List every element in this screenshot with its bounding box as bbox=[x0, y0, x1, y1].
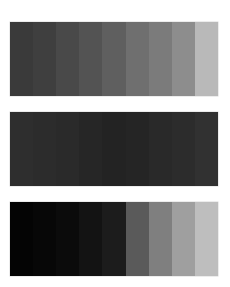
gray-band bbox=[126, 202, 149, 276]
gray-band bbox=[149, 202, 172, 276]
gray-band bbox=[33, 22, 56, 96]
gray-band bbox=[56, 202, 79, 276]
gray-band bbox=[56, 112, 79, 186]
gray-band bbox=[10, 202, 33, 276]
gray-band bbox=[195, 112, 218, 186]
gray-band bbox=[79, 22, 102, 96]
gray-band bbox=[56, 22, 79, 96]
gray-band bbox=[79, 202, 102, 276]
gray-band bbox=[195, 22, 218, 96]
gray-band bbox=[126, 22, 149, 96]
gray-strip-bottom bbox=[10, 202, 218, 276]
gray-band bbox=[195, 202, 218, 276]
gray-band bbox=[149, 112, 172, 186]
gray-band bbox=[10, 22, 33, 96]
gray-band bbox=[172, 22, 195, 96]
gray-band bbox=[10, 112, 33, 186]
gray-strip-top bbox=[10, 22, 218, 96]
gray-band bbox=[33, 112, 56, 186]
gray-band bbox=[172, 112, 195, 186]
gray-band bbox=[79, 112, 102, 186]
gray-band bbox=[33, 202, 56, 276]
gray-band bbox=[102, 202, 125, 276]
gray-band bbox=[102, 112, 125, 186]
gray-band bbox=[149, 22, 172, 96]
gray-band bbox=[126, 112, 149, 186]
gray-band bbox=[102, 22, 125, 96]
gray-band bbox=[172, 202, 195, 276]
gray-strip-middle bbox=[10, 112, 218, 186]
